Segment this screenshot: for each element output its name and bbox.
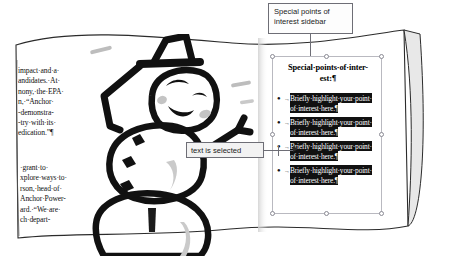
- bullet-line-1: Briefly·highlight·your·point·: [290, 141, 372, 151]
- doc-line: andidates.·At·: [18, 76, 92, 86]
- bullet-line-1: Briefly·highlight·your·point·: [290, 93, 372, 103]
- bullet-line-2: of·interest·here.¶: [290, 175, 338, 185]
- highlighted-bullet-text[interactable]: Briefly·highlight·your·point· of·interes…: [290, 117, 380, 137]
- doc-line: Anchor·Power-: [20, 194, 94, 204]
- selection-callout-leader-line: [264, 150, 294, 151]
- list-item[interactable]: ● → Briefly·highlight·your·point· of·int…: [275, 117, 383, 140]
- bullet-icon: ●: [277, 119, 281, 126]
- list-item[interactable]: ● → Briefly·highlight·your·point· of·int…: [275, 93, 383, 116]
- doc-line: ard.·“We·are·: [20, 205, 94, 215]
- snowman-buttons: [120, 134, 145, 192]
- list-item[interactable]: ● → Briefly·highlight·your·point· of·int…: [275, 165, 383, 188]
- doc-line: ·grant·to·: [20, 163, 94, 173]
- selection-callout-arrow-icon: [293, 146, 298, 152]
- resize-handle-top-left[interactable]: [270, 54, 275, 59]
- sidebar-callout-line-1: Special points of: [274, 7, 347, 17]
- sidebar-title-line-2: est:¶: [277, 74, 379, 85]
- sidebar-callout: Special points of interest sidebar: [268, 3, 353, 34]
- doc-line: n,·“Anchor·: [18, 97, 92, 107]
- sidebar-callout-line-2: interest sidebar: [274, 17, 347, 27]
- sidebar-bullet-list[interactable]: ● → Briefly·highlight·your·point· of·int…: [275, 93, 383, 189]
- highlighted-bullet-text[interactable]: Briefly·highlight·your·point· of·interes…: [290, 93, 380, 113]
- resize-handle-top-center[interactable]: [324, 54, 329, 59]
- bullet-line-2: of·interest·here.¶: [290, 103, 338, 113]
- bullet-line-1: Briefly·highlight·your·point·: [290, 117, 372, 127]
- screenshot-root: impact·and·a· andidates.·At· nony,·the·E…: [0, 0, 452, 263]
- doc-line: -try·with·its·: [18, 118, 92, 128]
- bullet-line-2: of·interest·here.¶: [290, 127, 338, 137]
- resize-handle-middle-left[interactable]: [270, 132, 275, 137]
- sidebar-callout-leader-line: [310, 34, 311, 56]
- selection-callout: text is selected: [186, 142, 264, 158]
- doc-line: ch·depart-: [20, 215, 94, 225]
- highlighted-bullet-text[interactable]: Briefly·highlight·your·point· of·interes…: [290, 165, 380, 185]
- list-item[interactable]: ● → Briefly·highlight·your·point· of·int…: [275, 141, 383, 164]
- doc-line: rson,·head·of·: [20, 184, 94, 194]
- resize-handle-bottom-center[interactable]: [324, 211, 329, 216]
- doc-line: edication.”¶: [18, 128, 92, 138]
- highlighted-bullet-text[interactable]: Briefly·highlight·your·point· of·interes…: [290, 141, 380, 161]
- doc-line: -demonstra-: [18, 108, 92, 118]
- bullet-icon: ●: [277, 95, 281, 102]
- selection-callout-crosshair: [278, 145, 279, 156]
- sidebar-title-line-1: Special·points·of·inter-: [277, 63, 379, 74]
- doc-line: nony,·the·EPA·: [18, 87, 92, 97]
- doc-line: impact·and·a·: [18, 66, 92, 76]
- sidebar-text-box[interactable]: Special·points·of·inter- est:¶ ● → Brief…: [272, 56, 382, 214]
- doc-line: xplore·ways·to·: [20, 173, 94, 183]
- resize-handle-middle-right[interactable]: [379, 132, 384, 137]
- bullet-icon: ●: [277, 167, 281, 174]
- document-text-column-top: impact·and·a· andidates.·At· nony,·the·E…: [18, 66, 92, 139]
- snowman-shading: [166, 160, 190, 256]
- resize-handle-top-right[interactable]: [379, 54, 384, 59]
- bullet-line-1: Briefly·highlight·your·point·: [290, 165, 372, 175]
- resize-handle-bottom-left[interactable]: [270, 211, 275, 216]
- snowman-face: [166, 80, 207, 117]
- resize-handle-bottom-right[interactable]: [379, 211, 384, 216]
- sidebar-title: Special·points·of·inter- est:¶: [277, 63, 379, 84]
- bullet-line-2: of·interest·here.¶: [290, 151, 338, 161]
- document-text-column-bottom: ·grant·to· xplore·ways·to· rson,·head·of…: [20, 163, 94, 225]
